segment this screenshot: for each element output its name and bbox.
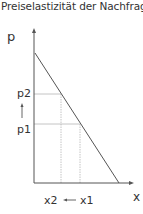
y-axis-label: p	[7, 30, 15, 43]
guide-lines	[34, 94, 80, 183]
x2-label: x2	[44, 195, 58, 206]
axes	[32, 28, 134, 185]
p2-label: p2	[17, 88, 31, 99]
p1-label: p1	[17, 124, 31, 135]
x1-label: x1	[80, 195, 94, 206]
x-axis-arrow-icon	[129, 181, 134, 185]
y-axis-arrow-icon	[32, 28, 36, 33]
x-axis-label: x	[133, 191, 140, 203]
demand-curve	[35, 53, 119, 183]
demand-diagram	[0, 0, 143, 214]
price-change-arrow-icon	[21, 103, 24, 118]
quantity-change-arrow-icon	[63, 199, 76, 202]
